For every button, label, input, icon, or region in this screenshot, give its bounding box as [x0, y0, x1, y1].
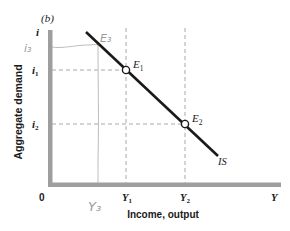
- x-axis-title: Income, output: [127, 209, 199, 220]
- handwritten-i3-line: [52, 45, 98, 48]
- tick-label-y2: Y2: [180, 192, 190, 205]
- tick-label-i1: i1: [32, 64, 39, 78]
- tick-label-i2: i2: [32, 118, 39, 132]
- handwritten-i3-label: i₃: [24, 42, 32, 55]
- handwritten-lines: [52, 45, 98, 185]
- y-axis-title: Aggregate demand: [12, 64, 24, 159]
- is-curve-diagram: (b) Aggregate demand E1 E2 IS i i1 i2 0 …: [0, 0, 290, 231]
- is-curve-label: IS: [217, 156, 227, 167]
- equilibrium-point-e2: [181, 120, 188, 127]
- tick-label-y1: Y1: [122, 192, 132, 205]
- y-axis: [48, 30, 53, 187]
- origin-label: 0: [39, 192, 45, 203]
- label-e1: E1: [132, 58, 144, 73]
- x-axis-symbol: Y: [271, 192, 279, 203]
- panel-label: (b): [41, 12, 54, 25]
- is-curve: [86, 32, 218, 156]
- label-e2: E2: [191, 112, 203, 127]
- y-axis-symbol: i: [36, 26, 40, 38]
- handwritten-e3-label: E₃: [100, 32, 112, 45]
- equilibrium-point-e1: [122, 66, 129, 73]
- x-axis: [48, 183, 281, 188]
- handwritten-y3-label: Y₃: [88, 199, 101, 214]
